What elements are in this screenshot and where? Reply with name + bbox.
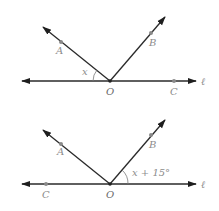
angle-label-x-plus-15: x + 15°	[132, 167, 170, 178]
label-line-l: ℓ	[201, 76, 205, 87]
label-b: B	[148, 37, 156, 48]
label-o: O	[106, 189, 114, 200]
label-o: O	[106, 86, 114, 97]
angle-label-x: x	[82, 66, 88, 77]
label-c: C	[42, 189, 50, 200]
vertex-o	[108, 79, 112, 83]
label-c: C	[170, 86, 178, 97]
label-a: A	[55, 45, 63, 56]
diagram-bottom: A B C O x + 15° ℓ	[22, 120, 205, 200]
ray-ob	[110, 17, 165, 81]
angle-arc-x-plus-15	[122, 170, 128, 184]
label-b: B	[148, 139, 156, 150]
point-c	[172, 79, 176, 83]
figure-canvas: A B C O x ℓ A B C O x + 15° ℓ	[0, 0, 219, 211]
label-a: A	[56, 146, 64, 157]
point-b	[149, 133, 153, 137]
point-c	[44, 182, 48, 186]
label-line-l: ℓ	[201, 179, 205, 190]
diagram-top: A B C O x ℓ	[22, 17, 205, 97]
ray-oa	[43, 27, 110, 81]
angle-arc-x	[93, 70, 97, 81]
vertex-o	[108, 182, 112, 186]
ray-oa	[43, 130, 110, 184]
point-a	[59, 40, 63, 44]
point-b	[149, 31, 153, 35]
